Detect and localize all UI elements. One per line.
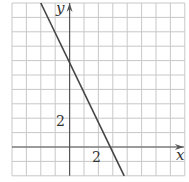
coordinate-plane: x y 2 2: [0, 0, 189, 182]
y-axis-label: y: [55, 0, 65, 17]
x-tick-label: 2: [92, 149, 101, 165]
y-tick-label: 2: [56, 113, 65, 129]
x-axis-label: x: [176, 146, 185, 164]
